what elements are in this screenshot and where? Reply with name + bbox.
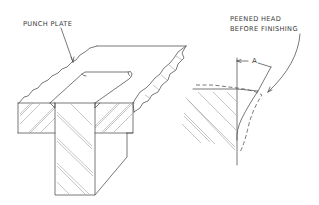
peened-profile-dashed — [196, 85, 262, 152]
peened-leader — [268, 34, 300, 92]
shank-front-face — [55, 103, 95, 195]
counterbore-slot — [50, 71, 132, 103]
plate-right-break-edge-outer — [134, 46, 186, 112]
punch-plate — [18, 46, 186, 133]
before-finishing-label: BEFORE FINISHING — [230, 26, 298, 33]
peened-head-label: PEENED HEAD — [230, 16, 281, 23]
dimension-a-label: A — [252, 58, 257, 65]
plate-left-break-edge — [19, 46, 97, 103]
punch-shank — [50, 103, 127, 195]
plate-right-break-edge-inner — [133, 46, 186, 103]
peened-head-detail — [182, 34, 300, 165]
punch-plate-label: PUNCH PLATE — [23, 21, 72, 28]
finished-profile — [237, 91, 258, 140]
shank-side-face — [95, 133, 127, 195]
